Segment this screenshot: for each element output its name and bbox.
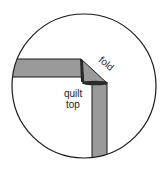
fold-diagram: fold quilt top [0, 0, 162, 172]
quilt-label-line2: top [66, 99, 80, 110]
fold-lip-shadow [82, 81, 108, 86]
vertical-binding-strip [92, 84, 107, 172]
quilt-label-line1: quilt [64, 88, 83, 99]
magnifier-circle-bg [12, 14, 156, 158]
